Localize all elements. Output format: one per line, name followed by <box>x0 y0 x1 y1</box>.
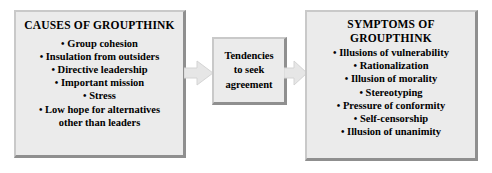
tendencies-line-1: Tendencies <box>224 49 273 64</box>
list-item: • Low hope for alternatives other than l… <box>16 103 183 129</box>
bullet-glyph: • <box>354 113 358 124</box>
list-item: • Stress <box>16 89 183 102</box>
tendencies-line-2: to seek <box>234 63 265 78</box>
list-item: • Illusions of vulnerability <box>307 46 475 59</box>
list-item-label: Illusion of morality <box>351 73 437 84</box>
symptoms-list: • Illusions of vulnerability • Rationali… <box>307 46 475 138</box>
bullet-glyph: • <box>40 51 44 62</box>
list-item-label: Low hope for alternatives other than lea… <box>45 104 160 128</box>
list-item: • Directive leadership <box>16 63 183 76</box>
list-item-label: Illusions of vulnerability <box>339 47 449 58</box>
bullet-glyph: • <box>61 38 65 49</box>
bullet-glyph: • <box>83 90 87 101</box>
causes-of-groupthink-box: CAUSES OF GROUPTHINK • Group cohesion • … <box>14 10 186 158</box>
list-item-label: Group cohesion <box>67 38 138 49</box>
bullet-glyph: • <box>359 87 363 98</box>
bullet-glyph: • <box>55 77 59 88</box>
list-item-label: Important mission <box>61 77 144 88</box>
causes-box-title: CAUSES OF GROUPTHINK <box>16 19 183 33</box>
list-item-label: Directive leadership <box>58 64 148 75</box>
bullet-glyph: • <box>333 47 337 58</box>
list-item-label: Self-censorship <box>360 113 428 124</box>
list-item: • Group cohesion <box>16 37 183 50</box>
bullet-glyph: • <box>345 73 349 84</box>
list-item-label: Insulation from outsiders <box>46 51 160 62</box>
list-item: • Important mission <box>16 76 183 89</box>
bullet-glyph: • <box>51 64 55 75</box>
symptoms-box-title: SYMPTOMS OF GROUPTHINK <box>307 18 475 45</box>
list-item: • Pressure of conformity <box>307 99 475 112</box>
bullet-glyph: • <box>341 126 345 137</box>
list-item: • Self-censorship <box>307 112 475 125</box>
list-item: • Insulation from outsiders <box>16 50 183 63</box>
list-item-label: Pressure of conformity <box>343 100 445 111</box>
symptoms-of-groupthink-box: SYMPTOMS OF GROUPTHINK • Illusions of vu… <box>305 10 478 161</box>
list-item: • Rationalization <box>307 59 475 72</box>
list-item: • Illusion of unanimity <box>307 125 475 138</box>
causes-list: • Group cohesion • Insulation from outsi… <box>16 37 183 129</box>
bullet-glyph: • <box>354 60 358 71</box>
bullet-glyph: • <box>39 104 43 115</box>
list-item-label: Illusion of unanimity <box>347 126 441 137</box>
tendencies-line-3: agreement <box>225 78 272 93</box>
list-item: • Illusion of morality <box>307 72 475 85</box>
block-arrow-right-icon <box>184 58 214 88</box>
list-item-label: Stress <box>89 90 116 101</box>
bullet-glyph: • <box>337 100 341 111</box>
list-item-label: Stereotyping <box>366 87 423 98</box>
list-item: • Stereotyping <box>307 86 475 99</box>
tendencies-to-seek-agreement-box: Tendencies to seek agreement <box>212 37 287 105</box>
list-item-label: Rationalization <box>360 60 429 71</box>
diagram-canvas: CAUSES OF GROUPTHINK • Group cohesion • … <box>0 0 492 173</box>
